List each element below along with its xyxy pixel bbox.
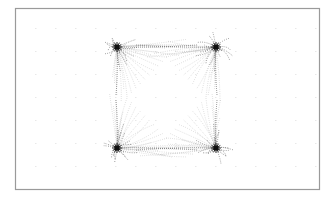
vector-field-plot	[0, 0, 332, 200]
vector-field-figure	[0, 0, 332, 200]
plot-frame	[16, 9, 320, 190]
